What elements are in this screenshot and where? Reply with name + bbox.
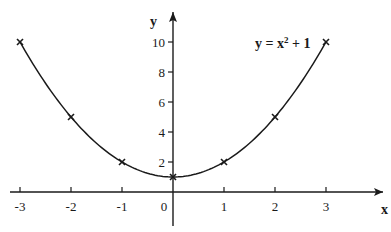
y-tick-label: 4 [159, 125, 166, 140]
y-tick-label: 8 [159, 65, 166, 80]
x-tick-label: -2 [66, 199, 77, 214]
x-tick-label: 3 [323, 199, 330, 214]
y-tick-label: 10 [152, 35, 165, 50]
y-axis-label: y [150, 14, 157, 29]
x-tick-label: -1 [117, 199, 128, 214]
x-tick-label: 1 [221, 199, 228, 214]
x-tick-label: -3 [15, 199, 26, 214]
chart-canvas: -3-2-10123246810 x y y = x2 + 1 [0, 0, 391, 232]
cross-marker-icon [119, 159, 125, 165]
y-tick-label: 6 [159, 95, 166, 110]
x-tick-label: 0 [161, 199, 168, 214]
x-tick-label: 2 [272, 199, 279, 214]
equation-annotation: y = x2 + 1 [255, 35, 310, 51]
cross-marker-icon [68, 114, 74, 120]
cross-marker-icon [17, 39, 23, 45]
cross-marker-icon [272, 114, 278, 120]
y-tick-label: 2 [159, 155, 166, 170]
cross-marker-icon [323, 39, 329, 45]
parabola-chart: -3-2-10123246810 x y y = x2 + 1 [0, 0, 391, 232]
x-axis-label: x [381, 202, 388, 217]
axis-ticks: -3-2-10123246810 [15, 35, 330, 215]
cross-marker-icon [221, 159, 227, 165]
